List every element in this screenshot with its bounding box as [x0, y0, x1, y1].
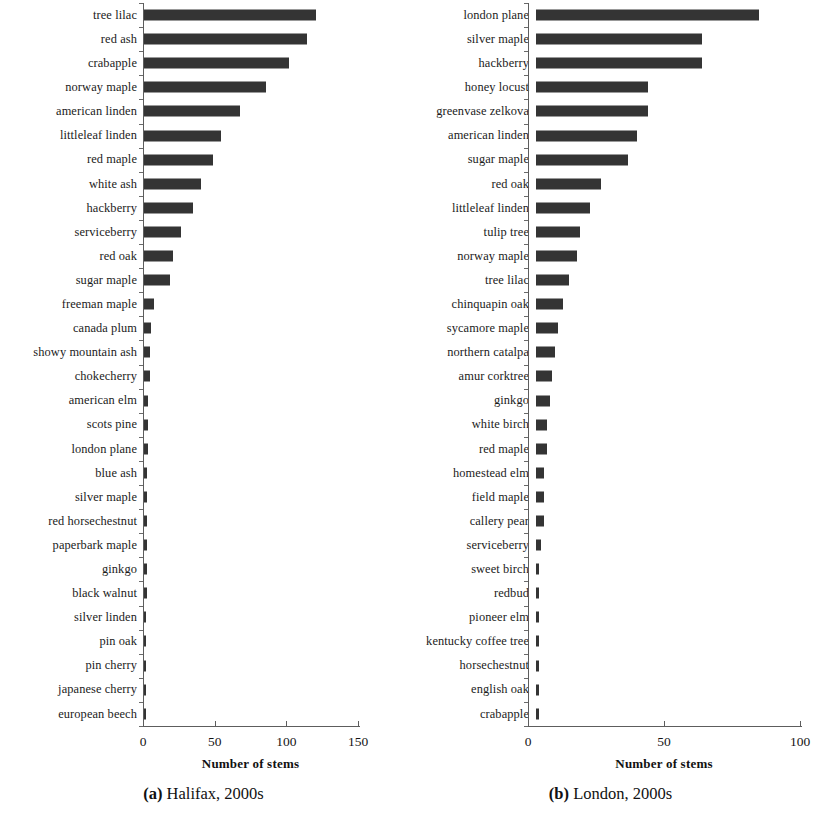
- bar-cell: [144, 485, 407, 509]
- bar: [536, 516, 544, 527]
- bar: [144, 660, 146, 671]
- y-tick: [524, 678, 528, 679]
- y-tick: [524, 630, 528, 631]
- y-tick: [139, 678, 143, 679]
- bar-cell: [536, 99, 814, 123]
- bar-cell: [536, 75, 814, 99]
- bar-cell: [536, 678, 814, 702]
- bar: [144, 299, 154, 310]
- y-tick: [524, 220, 528, 221]
- y-tick: [524, 413, 528, 414]
- bar: [536, 395, 550, 406]
- bar-row: london plane: [407, 3, 814, 27]
- bar-cell: [536, 3, 814, 27]
- bar: [144, 540, 147, 551]
- y-tick: [524, 196, 528, 197]
- bar-cell: [144, 581, 407, 605]
- category-label: greenvase zelkova: [407, 105, 536, 117]
- bar: [536, 10, 759, 21]
- bar: [536, 612, 539, 623]
- bar-cell: [536, 654, 814, 678]
- bar: [144, 10, 316, 21]
- y-axis-halifax: [143, 3, 144, 726]
- bar-row: serviceberry: [407, 533, 814, 557]
- bar-cell: [144, 389, 407, 413]
- y-tick: [524, 75, 528, 76]
- bar: [536, 371, 552, 382]
- bar: [144, 491, 147, 502]
- bar-row: american linden: [0, 99, 407, 123]
- bar-cell: [144, 316, 407, 340]
- y-tick: [139, 509, 143, 510]
- bar-cell: [536, 509, 814, 533]
- category-label: tulip tree: [407, 226, 536, 238]
- bar-cell: [144, 340, 407, 364]
- y-tick: [139, 726, 143, 727]
- bar: [144, 154, 213, 165]
- bar-cell: [536, 123, 814, 147]
- bar: [144, 467, 147, 478]
- bar-cell: [144, 268, 407, 292]
- bar-row: homestead elm: [407, 461, 814, 485]
- y-tick: [524, 461, 528, 462]
- category-label: london plane: [407, 9, 536, 21]
- category-label: amur corktree: [407, 370, 536, 382]
- bar: [536, 275, 569, 286]
- bar-row: pioneer elm: [407, 605, 814, 629]
- category-label: tree lilac: [407, 274, 536, 286]
- bar-row: american linden: [407, 123, 814, 147]
- bar: [144, 516, 147, 527]
- bar: [144, 106, 240, 117]
- bar-row: redbud: [407, 581, 814, 605]
- bar: [144, 323, 151, 334]
- y-axis-london: [528, 3, 529, 726]
- bar-cell: [144, 51, 407, 75]
- bar-row: silver maple: [0, 485, 407, 509]
- category-label: showy mountain ash: [0, 346, 144, 358]
- y-tick: [139, 3, 143, 4]
- y-tick: [139, 316, 143, 317]
- bar: [536, 34, 702, 45]
- y-tick: [524, 365, 528, 366]
- bar: [144, 684, 146, 695]
- bar-row: red oak: [407, 172, 814, 196]
- x-axis-title-halifax: Number of stems: [143, 756, 358, 772]
- bar-row: field maple: [407, 485, 814, 509]
- category-label: tree lilac: [0, 9, 144, 21]
- bar-cell: [144, 629, 407, 653]
- bar-row: red horsechestnut: [0, 509, 407, 533]
- bar-row: red maple: [407, 437, 814, 461]
- bar-row: callery pear: [407, 509, 814, 533]
- y-tick: [524, 485, 528, 486]
- bar-cell: [536, 340, 814, 364]
- bar-row: littleleaf linden: [0, 123, 407, 147]
- bar-row: scots pine: [0, 413, 407, 437]
- bar-row: ginkgo: [0, 557, 407, 581]
- category-label: pin cherry: [0, 659, 144, 671]
- x-tick: [528, 721, 529, 726]
- y-tick: [524, 389, 528, 390]
- category-label: northern catalpa: [407, 346, 536, 358]
- bar-row: kentucky coffee tree: [407, 629, 814, 653]
- bar-row: ginkgo: [407, 389, 814, 413]
- bar: [536, 323, 558, 334]
- category-label: red horsechestnut: [0, 515, 144, 527]
- bar: [144, 395, 148, 406]
- y-tick: [139, 51, 143, 52]
- bar-cell: [144, 172, 407, 196]
- bar-row: white ash: [0, 172, 407, 196]
- category-label: crabapple: [407, 708, 536, 720]
- category-label: norway maple: [0, 81, 144, 93]
- y-tick: [139, 75, 143, 76]
- category-label: redbud: [407, 587, 536, 599]
- figure-two-panel-bar-charts: tree lilacred ashcrabapplenorway mapleam…: [0, 0, 814, 815]
- y-tick: [524, 437, 528, 438]
- bar-row: white birch: [407, 413, 814, 437]
- category-label: littleleaf linden: [407, 202, 536, 214]
- bar-row: sweet birch: [407, 557, 814, 581]
- category-label: homestead elm: [407, 467, 536, 479]
- y-tick: [139, 461, 143, 462]
- bar-row: red ash: [0, 27, 407, 51]
- bar: [536, 708, 539, 719]
- y-tick: [524, 124, 528, 125]
